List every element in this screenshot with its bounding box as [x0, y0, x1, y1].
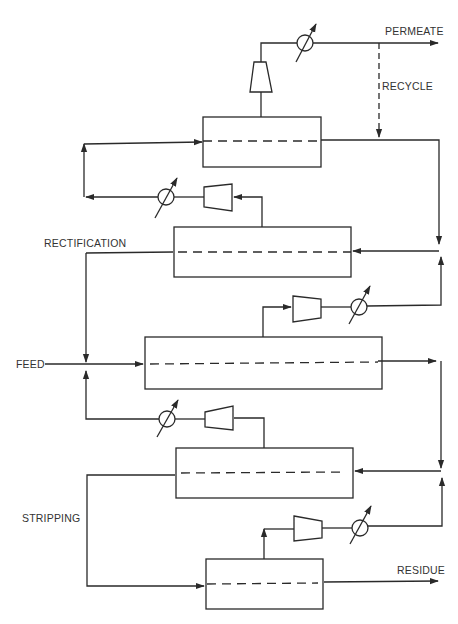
stage-1-membrane [203, 117, 321, 167]
stage-2-residue-line [86, 252, 173, 253]
permeate-label: PERMEATE [385, 25, 444, 37]
stage-2-membrane [174, 227, 351, 277]
rectification-label: RECTIFICATION [44, 237, 126, 249]
stage-5-membrane [206, 559, 323, 609]
compressor-icon [204, 184, 232, 211]
stripping-label: STRIPPING [22, 512, 80, 524]
residue-line [324, 581, 438, 582]
heat-exchanger-icon [352, 520, 368, 536]
stage-1-permeate-line [250, 24, 438, 117]
compressor-icon [293, 296, 321, 322]
recycle-label: RECYCLE [382, 80, 433, 92]
feed-label: FEED [16, 358, 45, 370]
compressor-icon [294, 516, 322, 541]
membrane-cascade-diagram [0, 0, 458, 624]
stage-3-membrane [145, 337, 382, 389]
compressor-icon [250, 62, 272, 92]
heat-exchanger-icon [297, 35, 313, 51]
compressor-icon [205, 406, 233, 430]
stage-4-membrane [176, 448, 353, 498]
residue-label: RESIDUE [397, 564, 445, 576]
stage-1-feed-line [84, 142, 202, 144]
stage-2-permeate-line [86, 178, 262, 227]
